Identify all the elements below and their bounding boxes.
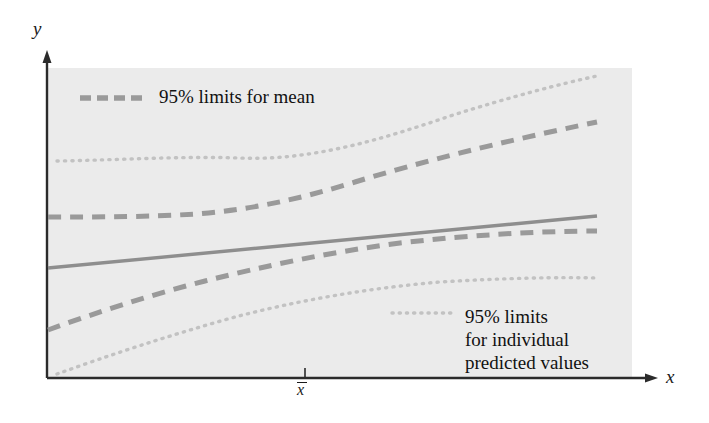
mean-tick-label: x [297,382,307,399]
legend-label-mean-limits: 95% limits for mean [159,85,315,108]
regression-interval-plot [0,0,709,423]
overbar-glyph [297,382,307,383]
legend-label-individual-limits: 95% limits for individual predicted valu… [465,305,589,374]
y-axis-label: y [33,18,41,40]
x-axis-label: x [666,366,674,388]
statistics-figure: y x x 95% limits for mean 95% limits for… [0,0,709,423]
